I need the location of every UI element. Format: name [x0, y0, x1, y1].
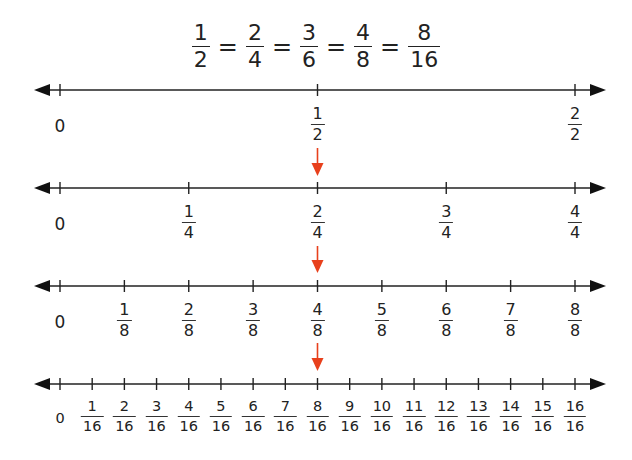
fraction-label-11-16: 1116 [403, 398, 425, 433]
fraction-label-13-16: 1316 [467, 398, 489, 433]
fraction-label-3-4: 34 [439, 202, 453, 241]
fraction-label-4-4: 44 [568, 202, 582, 241]
fraction-label-6-8: 68 [439, 300, 453, 339]
right-arrowhead-icon [590, 280, 606, 292]
left-arrowhead-icon [34, 84, 50, 96]
fraction-label-4-8: 48 [310, 300, 324, 339]
fraction-label-7-8: 78 [504, 300, 518, 339]
fraction-label-5-8: 58 [375, 300, 389, 339]
zero-label: 0 [55, 312, 66, 332]
fraction-label-16-16: 1616 [564, 398, 586, 433]
fraction-label-9-16: 916 [338, 398, 360, 433]
fraction-label-1-2: 12 [310, 104, 324, 143]
fraction-label-3-16: 316 [145, 398, 167, 433]
red-down-arrow-icon [312, 163, 324, 176]
fraction-label-2-8: 28 [182, 300, 196, 339]
red-down-arrow-icon [312, 358, 324, 371]
fraction-label-5-16: 516 [210, 398, 232, 433]
red-down-arrow-icon [312, 260, 324, 273]
left-arrowhead-icon [34, 280, 50, 292]
fraction-label-3-8: 38 [246, 300, 260, 339]
fraction-label-6-16: 616 [242, 398, 264, 433]
fraction-label-2-16: 216 [113, 398, 135, 433]
fraction-label-8-16: 816 [306, 398, 328, 433]
fraction-label-4-16: 416 [178, 398, 200, 433]
left-arrowhead-icon [34, 182, 50, 194]
fraction-label-8-8: 88 [568, 300, 582, 339]
left-arrowhead-icon [34, 378, 50, 390]
fraction-label-12-16: 1216 [435, 398, 457, 433]
fraction-label-10-16: 1016 [371, 398, 393, 433]
fraction-label-1-16: 116 [81, 398, 103, 433]
right-arrowhead-icon [590, 378, 606, 390]
right-arrowhead-icon [590, 84, 606, 96]
fraction-label-2-2: 22 [568, 104, 582, 143]
fraction-label-1-8: 18 [117, 300, 131, 339]
fraction-label-2-4: 24 [310, 202, 324, 241]
fraction-label-7-16: 716 [274, 398, 296, 433]
right-arrowhead-icon [590, 182, 606, 194]
fraction-label-1-4: 14 [182, 202, 196, 241]
zero-label: 0 [55, 410, 64, 426]
fraction-label-14-16: 1416 [499, 398, 521, 433]
fraction-label-15-16: 1516 [532, 398, 554, 433]
zero-label: 0 [55, 116, 66, 136]
zero-label: 0 [55, 214, 66, 234]
